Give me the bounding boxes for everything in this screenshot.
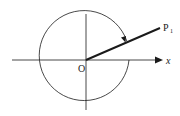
origin-label: O (78, 63, 85, 74)
arc-arrowhead-icon (121, 36, 126, 43)
x-axis-arrowhead-icon (155, 57, 163, 64)
point-label: P (163, 22, 169, 33)
polar-angle-diagram: O x P 1 (0, 0, 180, 116)
angle-arc (39, 11, 129, 101)
x-axis-label: x (165, 55, 171, 66)
point-subscript: 1 (170, 28, 173, 34)
diagram-svg: O x P 1 (0, 0, 180, 116)
